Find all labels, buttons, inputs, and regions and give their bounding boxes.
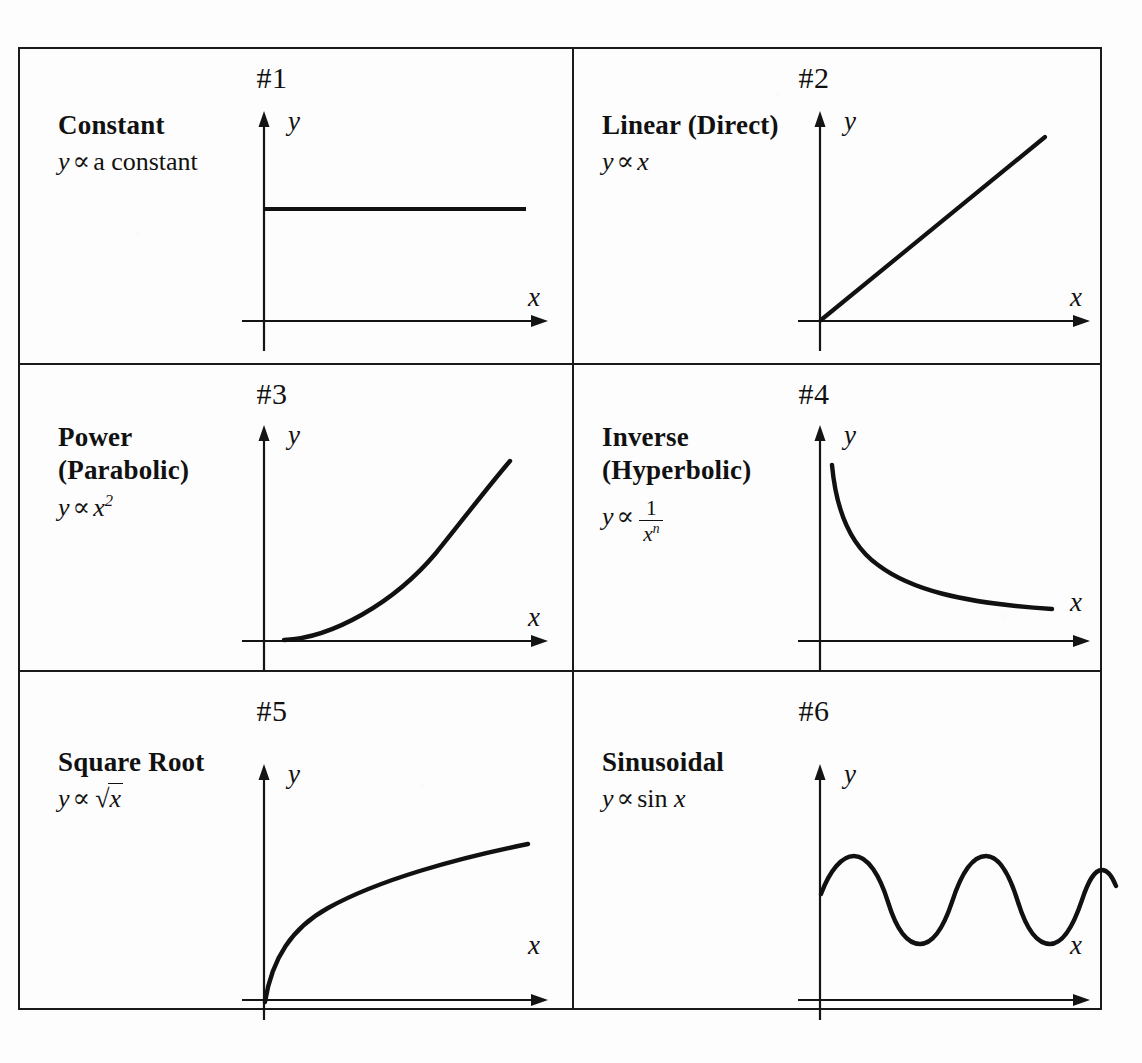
x-axis-arrowhead [1073,994,1090,1006]
cell-5-y-axis-label: y [288,759,300,790]
y-axis-arrowhead [815,764,826,780]
cell-4-inverse: #4 Inverse (Hyperbolic) y∝1xn y x [574,365,1102,670]
cell-6-function: sin [637,784,667,813]
curve-sqrt [265,844,528,1002]
relationship-table-frame: #1 Constant y∝a constant y x #2 Linear (… [18,47,1102,1010]
plot-linear [792,99,1122,359]
cell-3-number: #3 [20,377,572,411]
cell-4-number: #4 [574,377,1102,411]
cell-2-formula-rhs: x [637,147,649,176]
curve-hyperbolic [832,465,1052,609]
cell-6-formula-rhs: x [674,784,686,813]
cell-5-x-axis-label: x [528,930,540,961]
cell-4-denominator: xn [639,522,663,545]
cell-4-fraction: 1xn [637,497,665,546]
cell-1-x-axis-label: x [528,282,540,313]
cell-4-y-axis-label: y [844,420,856,451]
y-axis-arrowhead [815,425,826,441]
cell-1-y-axis-label: y [288,106,300,137]
cell-2-linear: #2 Linear (Direct) y∝x y x [574,49,1102,363]
y-axis-arrowhead [259,764,270,780]
plot-sqrt [236,752,576,1027]
cell-6-x-axis-label: x [1070,930,1082,961]
cell-3-x-axis-label: x [528,602,540,633]
x-axis-arrowhead [531,994,548,1006]
y-axis-arrowhead [259,111,270,127]
plot-hyperbolic [792,413,1122,678]
x-axis-arrowhead [531,635,548,647]
cell-5-radicand: x [108,783,123,813]
curve-linear [821,137,1045,320]
x-axis-arrowhead [531,315,548,327]
plot-constant [236,99,566,359]
cell-2-number: #2 [574,61,1102,95]
cell-2-x-axis-label: x [1070,282,1082,313]
cell-1-formula-rhs: a constant [93,147,198,176]
y-axis-arrowhead [815,111,826,127]
cell-3-formula-exponent: 2 [105,491,113,510]
cell-1-number: #1 [20,61,572,95]
cell-5-square-root: #5 Square Root y∝√x y x [20,672,572,1010]
cell-6-sinusoidal: #6 Sinusoidal y∝sin x y x [574,672,1102,1010]
cell-3-formula-base: x [93,493,105,522]
plot-sinusoidal [792,752,1132,1027]
plot-parabolic [236,413,566,678]
cell-4-numerator: 1 [639,497,663,519]
cell-4-x-axis-label: x [1070,587,1082,618]
cell-5-radical: √x [93,783,123,816]
x-axis-arrowhead [1073,635,1090,647]
cell-6-number: #6 [574,694,1102,728]
y-axis-arrowhead [259,425,270,441]
curve-parabolic [284,461,510,640]
cell-3-power: #3 Power (Parabolic) y∝x2 y x [20,365,572,670]
cell-5-number: #5 [20,694,572,728]
cell-2-y-axis-label: y [844,106,856,137]
x-axis-arrowhead [1073,315,1090,327]
cell-3-y-axis-label: y [288,420,300,451]
cell-6-y-axis-label: y [844,759,856,790]
cell-1-constant: #1 Constant y∝a constant y x [20,49,572,363]
